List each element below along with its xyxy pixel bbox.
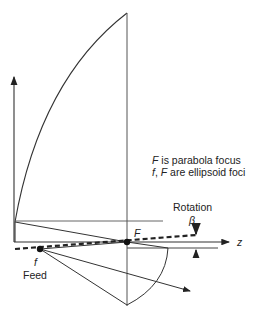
beta-label: β xyxy=(189,214,195,226)
caption-text-1: is parabola focus xyxy=(158,154,240,166)
focus-point-F xyxy=(124,239,130,245)
z-axis-label: z xyxy=(237,236,242,248)
parabola-reflector xyxy=(15,13,127,242)
feed-point-f xyxy=(37,246,43,252)
caption-line-1: F is parabola focus xyxy=(152,154,241,166)
ellipsoid-subreflector xyxy=(127,248,168,305)
caption-line-2: f, F are ellipsoid foci xyxy=(152,166,245,178)
feed-ray-lower xyxy=(40,249,127,305)
focus-label: F xyxy=(134,227,140,239)
rotation-label: Rotation xyxy=(173,201,212,213)
caption-text-2: are ellipsoid foci xyxy=(167,166,245,178)
feed-label: Feed xyxy=(23,269,47,281)
ray-to-focus xyxy=(15,222,127,242)
feed-point-label: f xyxy=(34,256,37,268)
ray-focus-to-ellipse xyxy=(127,242,168,248)
